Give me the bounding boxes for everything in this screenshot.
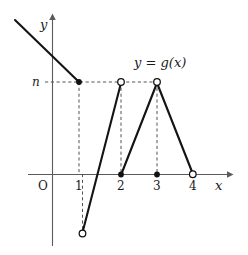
curve-branch-4 bbox=[157, 83, 193, 173]
x-tick-label-3: 3 bbox=[153, 180, 161, 192]
axes-group bbox=[28, 19, 228, 246]
filled-point-1-n bbox=[76, 79, 82, 85]
x-axis-label: x bbox=[215, 179, 222, 192]
open-point-4-0 bbox=[190, 171, 197, 178]
filled-point-3-0 bbox=[154, 172, 160, 178]
open-point-lower-endpoint bbox=[79, 230, 86, 237]
y-axis-label: y bbox=[40, 18, 47, 31]
graph-figure: y x O n 1 2 3 4 y = g(x) bbox=[0, 0, 248, 255]
x-tick-label-2: 2 bbox=[117, 180, 125, 192]
x-tick-label-4: 4 bbox=[189, 180, 197, 192]
open-point-2-n bbox=[118, 79, 125, 86]
open-point-3-n bbox=[154, 79, 161, 86]
curve-equation-label: y = g(x) bbox=[134, 56, 186, 69]
filled-point-2-0 bbox=[118, 172, 124, 178]
open-points-group bbox=[79, 79, 196, 237]
x-tick-label-1: 1 bbox=[75, 180, 83, 192]
origin-label: O bbox=[38, 180, 48, 192]
curve-branch-3 bbox=[121, 83, 157, 175]
curve-group bbox=[15, 20, 193, 233]
plot-canvas bbox=[0, 0, 248, 255]
y-tick-label-n: n bbox=[32, 76, 40, 88]
curve-branch-2 bbox=[83, 83, 122, 233]
